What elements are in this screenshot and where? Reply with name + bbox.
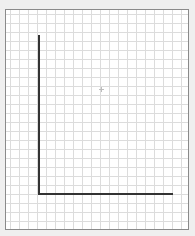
crosshair-marker-icon bbox=[99, 87, 104, 92]
x-axis-line bbox=[38, 193, 173, 195]
y-axis-line bbox=[38, 35, 40, 195]
drawing-canvas bbox=[0, 0, 195, 236]
grid-paper[interactable] bbox=[5, 9, 189, 230]
